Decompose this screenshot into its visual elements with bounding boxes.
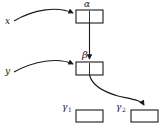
diagram-vector-layer: [0, 0, 164, 129]
diagram-canvas: α β x y γ1 γ2: [0, 0, 164, 129]
label-gamma1: γ1: [62, 103, 72, 113]
edge-y-to-beta: [14, 61, 73, 72]
edge-beta-to-gamma2: [90, 75, 145, 105]
label-beta: β: [82, 50, 88, 60]
label-gamma2: γ2: [116, 103, 126, 113]
label-gamma2-subscript: 2: [121, 106, 125, 113]
label-y: y: [5, 67, 10, 76]
edge-x-to-alpha: [14, 9, 73, 21]
label-x: x: [5, 17, 10, 26]
label-alpha: α: [84, 0, 90, 9]
box-gamma1: [76, 110, 103, 122]
box-gamma2: [131, 110, 158, 122]
label-gamma1-subscript: 1: [67, 106, 71, 113]
